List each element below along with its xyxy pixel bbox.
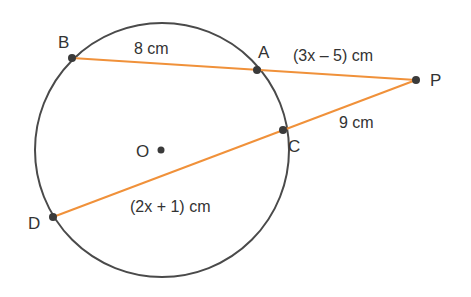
label-c: C bbox=[288, 137, 300, 156]
label-p: P bbox=[430, 71, 441, 90]
measure-ba: 8 cm bbox=[134, 40, 169, 57]
label-o: O bbox=[136, 142, 149, 161]
label-d: D bbox=[28, 214, 40, 233]
secant-line-dp bbox=[53, 80, 416, 217]
point-d-dot bbox=[49, 213, 57, 221]
point-a-dot bbox=[253, 66, 261, 74]
label-a: A bbox=[258, 43, 270, 62]
measure-dc: (2x + 1) cm bbox=[130, 198, 210, 215]
secant-diagram: B A P C D O 8 cm (3x – 5) cm 9 cm (2x + … bbox=[0, 0, 471, 297]
point-c-dot bbox=[279, 126, 287, 134]
point-b-dot bbox=[68, 54, 76, 62]
measure-cp: 9 cm bbox=[339, 114, 374, 131]
center-o-dot bbox=[158, 147, 165, 154]
measure-ap: (3x – 5) cm bbox=[293, 47, 373, 64]
label-b: B bbox=[58, 33, 69, 52]
point-p-dot bbox=[412, 76, 420, 84]
